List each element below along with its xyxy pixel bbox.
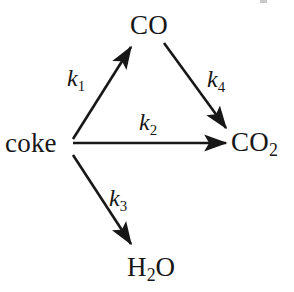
species-label-h2o: H2O [127,254,175,285]
species-label-co2: CO2 [231,129,278,160]
rate-constant-label-k3: k3 [109,186,127,214]
rate-constant-label-k1: k1 [67,66,85,94]
rate-constant-label-k2: k2 [139,110,157,138]
rate-constant-label-k4: k4 [207,67,225,95]
species-label-coke: coke [5,130,57,157]
reaction-scheme-diagram: coke CO CO2 H2O k1 k2 k3 k4 [0,0,294,292]
species-label-co: CO [130,12,168,39]
scan-artifact-mark [260,0,267,3]
